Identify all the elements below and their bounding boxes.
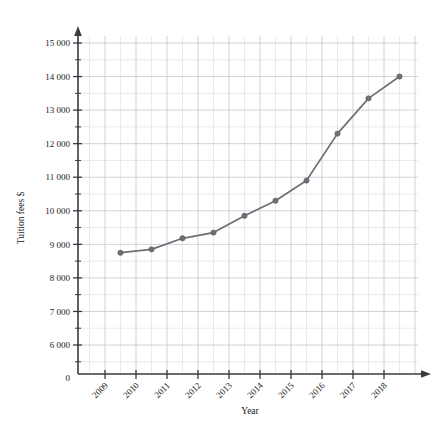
y-tick-label: 11 000: [46, 172, 71, 182]
y-tick-label: 13 000: [45, 105, 70, 115]
y-tick-label: 12 000: [45, 139, 70, 149]
x-tick-label: 2010: [121, 380, 141, 400]
data-point: 2017: 13350: [366, 96, 371, 101]
x-tick-label: 2015: [276, 380, 296, 400]
x-tick-label: 2017: [338, 380, 358, 400]
data-point: 2014: 10300: [273, 198, 278, 203]
y-tick-label: 14 000: [45, 72, 70, 82]
minor-gridlines: [78, 36, 418, 374]
y-tick-label: 6 000: [50, 340, 71, 350]
y-axis-arrowhead: [74, 26, 82, 36]
data-point: 2018: 14000: [397, 74, 402, 79]
y-tick-label: 7 000: [50, 307, 71, 317]
data-point: 2015: 10900: [304, 178, 309, 183]
x-tick-label: 2012: [183, 380, 203, 400]
x-tick-label: 2009: [90, 380, 110, 400]
data-point: 2012: 9350: [211, 230, 216, 235]
x-tick-label: 2016: [307, 380, 327, 400]
data-point: 2011: 9180: [180, 236, 185, 241]
y-axis-tick-labels: 6 0007 0008 0009 00010 00011 00012 00013…: [45, 38, 70, 350]
chart-axes: [74, 26, 431, 378]
data-point: 2010: 8850: [149, 247, 154, 252]
y-tick-label: 15 000: [45, 38, 70, 48]
x-tick-label: 2018: [369, 380, 389, 400]
x-tick-label: 2011: [152, 380, 172, 400]
chart-plot-area: 6 0007 0008 0009 00010 00011 00012 00013…: [0, 0, 441, 425]
x-axis-tick-labels: 2009201020112012201320142015201620172018: [90, 380, 389, 400]
tuition-fees-line-chart: 6 0007 0008 0009 00010 00011 00012 00013…: [0, 0, 441, 425]
x-axis-title: Year: [241, 406, 259, 416]
x-tick-label: 2014: [245, 380, 265, 400]
y-tick-label: 9 000: [50, 240, 71, 250]
major-gridlines: [78, 36, 418, 374]
data-point: 2013: 9850: [242, 213, 247, 218]
y-tick-label: 8 000: [50, 273, 71, 283]
y-axis-title: Tuition fees $: [16, 192, 26, 245]
y-tick-label: 10 000: [45, 206, 70, 216]
y-axis-zero-label: 0: [66, 373, 71, 383]
x-tick-label: 2013: [214, 380, 234, 400]
data-point: 2016: 12300: [335, 131, 340, 136]
x-axis-arrowhead: [421, 370, 431, 378]
data-point: 2009: 8750: [118, 250, 123, 255]
